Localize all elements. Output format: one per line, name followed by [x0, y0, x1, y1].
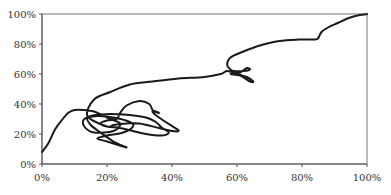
y-tick-label: 0% — [20, 159, 36, 170]
series-layer — [42, 14, 367, 152]
y-axis: 0%20%40%60%80%100% — [7, 9, 42, 170]
x-tick-label: 0% — [34, 172, 50, 183]
x-tick-label: 40% — [161, 172, 183, 183]
x-tick-label: 100% — [353, 172, 382, 183]
series-line-trajectory — [42, 14, 367, 152]
x-tick-label: 80% — [291, 172, 313, 183]
y-tick-label: 100% — [7, 9, 36, 20]
y-tick-label: 60% — [14, 69, 36, 80]
y-tick-label: 80% — [14, 39, 36, 50]
y-tick-label: 20% — [14, 129, 36, 140]
y-tick-label: 40% — [14, 99, 36, 110]
chart-svg: 0%20%40%60%80%100% 0%20%40%60%80%100% — [0, 0, 391, 195]
x-tick-label: 20% — [96, 172, 118, 183]
x-axis: 0%20%40%60%80%100% — [34, 164, 381, 183]
x-tick-label: 60% — [226, 172, 248, 183]
